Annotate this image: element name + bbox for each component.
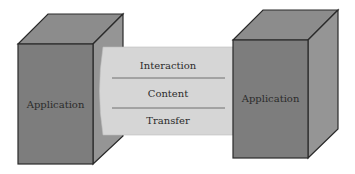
right-application-box: Application — [233, 10, 338, 158]
layer-interaction-label: Interaction — [140, 60, 197, 71]
layer-transfer-label: Transfer — [146, 115, 190, 126]
left-box-label: Application — [26, 99, 85, 110]
layer-content-label: Content — [148, 88, 189, 99]
right-box-label: Application — [241, 93, 300, 104]
channel-band: Interaction Content Transfer — [100, 47, 234, 135]
diagram-canvas: Application Interaction Content Transfer… — [0, 0, 355, 174]
